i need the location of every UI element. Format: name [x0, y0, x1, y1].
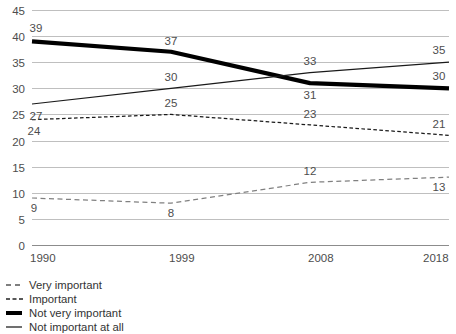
- legend-label-important: Important: [29, 292, 77, 306]
- data-point-label: 39: [30, 22, 43, 34]
- y-axis-tick-label: 30: [12, 83, 25, 95]
- legend-label-very-important: Very important: [29, 278, 102, 292]
- data-point-label: 12: [304, 165, 317, 177]
- data-point-label: 24: [28, 125, 41, 137]
- x-axis-tick-label: 1999: [169, 252, 195, 264]
- legend-item-not-important-at-all[interactable]: Not important at all: [6, 320, 306, 334]
- legend-marker-dashed-wide-icon: [6, 279, 24, 291]
- data-point-label: 35: [433, 44, 446, 56]
- series-line-not-very-important: [32, 41, 449, 88]
- chart-plot-area: 051015202530354045 981213242523213937313…: [0, 0, 456, 272]
- y-axis-tick-label: 40: [12, 31, 25, 43]
- y-axis-tick-labels: 051015202530354045: [12, 5, 25, 252]
- y-axis-tick-label: 25: [12, 109, 25, 121]
- legend-label-not-important-at-all: Not important at all: [29, 320, 124, 334]
- x-axis-tick-label: 1990: [30, 252, 56, 264]
- data-point-label: 30: [433, 70, 446, 82]
- data-point-label: 33: [304, 55, 317, 67]
- y-axis-tick-label: 35: [12, 57, 25, 69]
- series-lines: [32, 41, 449, 203]
- y-axis-tick-label: 20: [12, 136, 25, 148]
- y-axis-tick-label: 5: [19, 214, 25, 226]
- legend-item-important[interactable]: Important: [6, 292, 306, 306]
- data-point-label: 27: [30, 110, 43, 122]
- data-point-label: 13: [433, 181, 446, 193]
- y-axis-tick-label: 10: [12, 188, 25, 200]
- data-point-label: 37: [165, 35, 178, 47]
- x-axis-tick-label: 2008: [308, 252, 334, 264]
- legend-marker-solid-thick-icon: [6, 307, 24, 319]
- legend-item-very-important[interactable]: Very important: [6, 278, 306, 292]
- x-axis-tick-label: 2018: [423, 252, 449, 264]
- x-axis-tick-labels: 1990199920082018: [30, 252, 449, 264]
- data-point-labels: 981213242523213937313027303335: [28, 22, 446, 219]
- y-axis-tick-label: 45: [12, 5, 25, 17]
- legend-marker-dashed-tight-icon: [6, 293, 24, 305]
- data-point-label: 30: [165, 71, 178, 83]
- data-point-label: 8: [168, 207, 174, 219]
- data-point-label: 31: [304, 89, 317, 101]
- data-point-label: 23: [304, 108, 317, 120]
- y-axis-tick-label: 15: [12, 162, 25, 174]
- y-axis-tick-label: 0: [19, 240, 25, 252]
- line-chart: 051015202530354045 981213242523213937313…: [0, 0, 456, 334]
- data-point-label: 25: [165, 97, 178, 109]
- legend-item-not-very-important[interactable]: Not very important: [6, 306, 306, 320]
- series-line-very-important: [32, 177, 449, 203]
- series-line-important: [32, 114, 449, 135]
- data-point-label: 9: [31, 202, 37, 214]
- chart-legend: Very important Important Not very import…: [6, 278, 306, 334]
- legend-marker-solid-thin-icon: [6, 321, 24, 333]
- legend-label-not-very-important: Not very important: [29, 306, 121, 320]
- data-point-label: 21: [433, 118, 446, 130]
